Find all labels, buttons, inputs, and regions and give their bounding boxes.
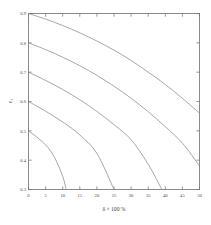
y-tick-label-1: 0.4 [20, 158, 26, 163]
y-tick-label-0: 0.3 [20, 187, 26, 192]
y-tick-label-2: 0.5 [20, 129, 26, 134]
x-tick-label-7: 35 [146, 193, 151, 198]
x-tick-label-10: 50 [197, 193, 202, 198]
x-tick-label-8: 40 [163, 193, 168, 198]
chart-figure: 05101520253035404550 0.30.40.50.60.70.80… [0, 0, 211, 225]
y-tick-label-3: 0.6 [20, 99, 26, 104]
x-tick-label-6: 30 [129, 193, 134, 198]
x-tick-label-2: 10 [60, 193, 65, 198]
x-tick-label-3: 15 [78, 193, 83, 198]
x-tick-label-9: 45 [180, 193, 185, 198]
x-tick-label-4: 20 [95, 193, 100, 198]
x-tick-label-5: 25 [112, 193, 117, 198]
y-tick-label-5: 0.8 [20, 41, 26, 46]
line-chart: 05101520253035404550 0.30.40.50.60.70.80… [0, 0, 211, 225]
y-tick-label-4: 0.7 [20, 70, 26, 75]
x-axis-label: δ × 100 % [102, 206, 125, 212]
y-tick-label-6: 0.9 [20, 11, 26, 16]
chart-background [0, 0, 211, 225]
